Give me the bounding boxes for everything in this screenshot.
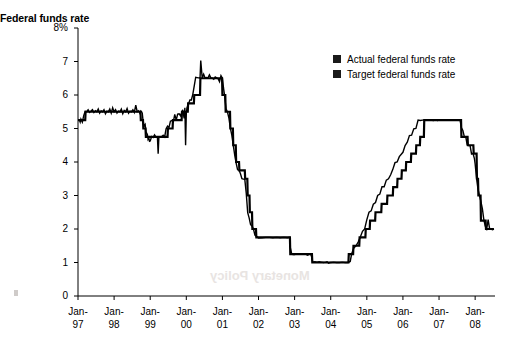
legend-item-label: Target federal funds rate xyxy=(347,69,455,80)
chart-legend: Actual federal funds rateTarget federal … xyxy=(333,52,455,82)
y-axis-tick-label: 4 xyxy=(28,157,68,167)
legend-swatch-icon xyxy=(333,70,341,78)
series-actual-federal-funds-rate xyxy=(78,61,494,264)
x-axis-ticks xyxy=(78,296,475,300)
federal-funds-rate-chart: Monetary Policy Federal funds rate 01234… xyxy=(0,0,507,355)
y-axis-tick-label: 6 xyxy=(28,90,68,100)
y-axis-tick-label: 5 xyxy=(28,124,68,134)
x-axis-tick-label: Jan-08 xyxy=(453,306,497,331)
y-axis-tick-label: 3 xyxy=(28,191,68,201)
legend-item[interactable]: Target federal funds rate xyxy=(333,67,455,81)
y-axis-tick-label: 2 xyxy=(28,224,68,234)
series-target-federal-funds-rate xyxy=(78,78,494,262)
y-axis-tick-label: 0 xyxy=(28,291,68,301)
y-axis-tick-label: 8% xyxy=(28,23,68,33)
y-axis-tick-label: 1 xyxy=(28,258,68,268)
x-tick-label-year: 08 xyxy=(453,319,497,332)
legend-swatch-icon xyxy=(333,55,341,63)
y-axis-tick-label: 7 xyxy=(28,57,68,67)
legend-item[interactable]: Actual federal funds rate xyxy=(333,52,455,66)
legend-item-label: Actual federal funds rate xyxy=(347,54,455,65)
data-series-group xyxy=(78,61,494,264)
y-axis-ticks xyxy=(74,28,78,296)
x-tick-label-month: Jan- xyxy=(453,306,497,319)
